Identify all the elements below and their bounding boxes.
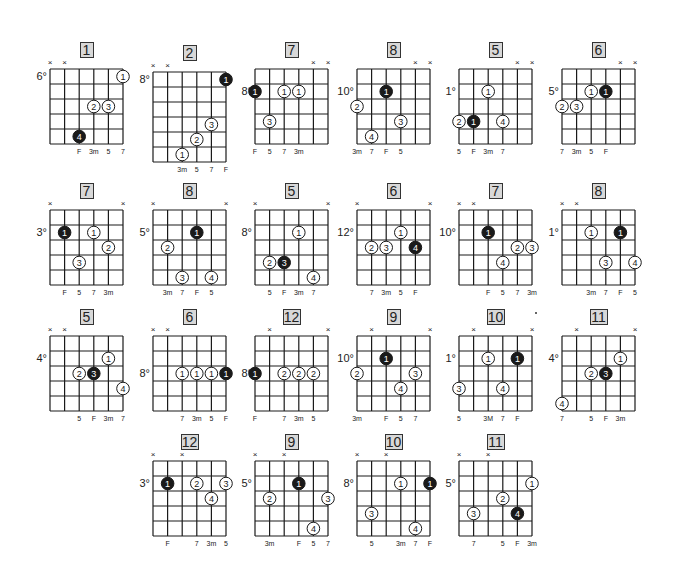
interval-label: F [598, 415, 614, 422]
finger-dot-open: 1 [526, 477, 539, 490]
svg-text:1: 1 [91, 228, 96, 238]
muted-string-x: × [309, 58, 317, 67]
finger-dot-open: 2 [88, 100, 101, 113]
interval-label: 7 [364, 148, 380, 155]
muted-string-x: × [46, 325, 54, 334]
finger-dot-open: 4 [395, 382, 408, 395]
interval-label: 5 [71, 289, 87, 296]
interval-label: 7 [509, 289, 525, 296]
chord-number-label: 8 [183, 183, 197, 199]
finger-dot-filled: 1 [511, 352, 524, 365]
interval-label: 5 [451, 148, 467, 155]
finger-dot-open: 2 [351, 367, 364, 380]
svg-text:3: 3 [325, 494, 330, 504]
fret-position-label: 12° [332, 226, 354, 238]
interval-label: 5 [305, 540, 321, 547]
interval-label: 5 [218, 540, 234, 547]
svg-text:4: 4 [311, 524, 316, 534]
fretboard-grid: 1234 [561, 335, 636, 412]
interval-label: F [247, 148, 263, 155]
fretboard-grid: 1123 [49, 209, 124, 286]
interval-label: F [466, 148, 482, 155]
svg-text:4: 4 [120, 384, 125, 394]
interval-label: 5 [393, 289, 409, 296]
muted-string-x: × [266, 325, 274, 334]
muted-string-x: × [426, 58, 434, 67]
finger-dot-open: 3 [205, 118, 218, 131]
muted-string-x: × [528, 58, 536, 67]
finger-dot-open: 4 [497, 115, 510, 128]
finger-dot-open: 2 [365, 241, 378, 254]
muted-string-x: × [513, 58, 521, 67]
interval-label: 3m [189, 415, 205, 422]
svg-text:3: 3 [209, 120, 214, 130]
chord-number-label: 7 [285, 42, 299, 58]
svg-text:1: 1 [515, 354, 520, 364]
finger-dot-open: 4 [556, 397, 569, 410]
interval-label: 3m [291, 415, 307, 422]
svg-text:1: 1 [194, 228, 199, 238]
interval-label: 7 [407, 415, 423, 422]
interval-label: 3m [583, 289, 599, 296]
interval-label: 5 [583, 415, 599, 422]
muted-string-x: × [149, 61, 157, 70]
svg-text:3: 3 [413, 369, 418, 379]
chord-number-label: 1 [80, 42, 94, 58]
svg-text:2: 2 [77, 369, 82, 379]
interval-label: 3m [393, 540, 409, 547]
svg-text:1: 1 [223, 75, 228, 85]
finger-dot-open: 2 [263, 256, 276, 269]
svg-text:2: 2 [91, 102, 96, 112]
muted-string-x: × [455, 450, 463, 459]
interval-label: F [378, 148, 394, 155]
muted-string-x: × [573, 199, 581, 208]
finger-dot-open: 3 [73, 256, 86, 269]
svg-text:3: 3 [603, 369, 608, 379]
muted-string-x: × [426, 325, 434, 334]
muted-string-x: × [164, 61, 172, 70]
fretboard-grid: 1234 [356, 68, 431, 145]
finger-dot-open: 1 [205, 367, 218, 380]
svg-text:1: 1 [618, 228, 623, 238]
interval-label: 3m [174, 166, 190, 173]
muted-string-x: × [411, 58, 419, 67]
svg-text:3: 3 [106, 102, 111, 112]
interval-label: 3M [480, 415, 496, 422]
muted-string-x: × [251, 450, 259, 459]
muted-string-x: × [573, 325, 581, 334]
muted-string-x: × [426, 199, 434, 208]
interval-label: 3m [378, 289, 394, 296]
muted-string-x: × [280, 450, 288, 459]
chord-number-label: 5 [80, 309, 94, 325]
interval-label: 7 [466, 540, 482, 547]
interval-label: 7 [276, 415, 292, 422]
muted-string-x: × [353, 199, 361, 208]
interval-label: 5 [451, 415, 467, 422]
finger-dot-filled: 1 [161, 477, 174, 490]
interval-label: F [71, 148, 87, 155]
svg-text:1: 1 [194, 369, 199, 379]
svg-text:1: 1 [165, 479, 170, 489]
interval-label: 5 [71, 415, 87, 422]
chord-number-label: 12 [181, 434, 199, 450]
svg-text:4: 4 [77, 132, 82, 142]
chord-number-label: 7 [489, 183, 503, 199]
muted-string-x: × [470, 199, 478, 208]
muted-string-x: × [631, 325, 639, 334]
interval-label: 5 [262, 148, 278, 155]
svg-text:1: 1 [384, 87, 389, 97]
finger-dot-filled: 1 [467, 115, 480, 128]
svg-text:2: 2 [165, 243, 170, 253]
svg-text:1: 1 [180, 150, 185, 160]
svg-text:1: 1 [486, 228, 491, 238]
svg-text:4: 4 [515, 509, 520, 519]
svg-text:1: 1 [384, 354, 389, 364]
interval-label: 7 [203, 166, 219, 173]
fretboard-grid: 1134 [561, 209, 636, 286]
muted-string-x: × [119, 199, 127, 208]
fretboard-grid: 1113 [254, 68, 329, 145]
interval-label: 3m [349, 148, 365, 155]
chord-number-label: 6 [592, 42, 606, 58]
interval-label: 5 [495, 540, 511, 547]
finger-dot-open: 1 [395, 226, 408, 239]
